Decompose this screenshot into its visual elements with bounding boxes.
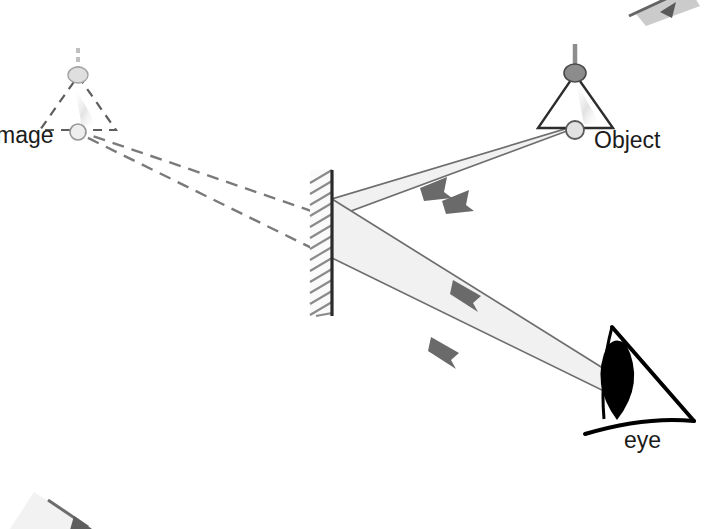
image-label: mage bbox=[0, 122, 54, 148]
object-label: Object bbox=[594, 127, 661, 153]
plane-mirror bbox=[310, 170, 332, 316]
lamp-bulb bbox=[566, 121, 584, 139]
image-lamp-cap bbox=[68, 67, 88, 83]
lamp-cap bbox=[564, 64, 586, 82]
image-lamp-bulb bbox=[70, 124, 86, 140]
eye-label: eye bbox=[624, 427, 661, 453]
ray-diagram-canvas: mage Object eye bbox=[0, 0, 706, 529]
optics-scene: mage Object eye bbox=[0, 0, 706, 529]
